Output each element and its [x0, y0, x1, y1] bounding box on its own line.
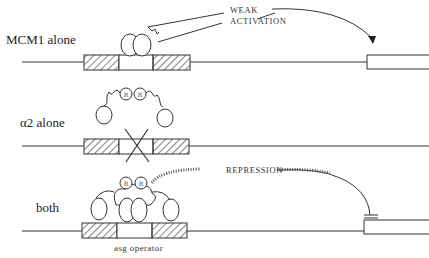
svg-text:R: R — [124, 180, 129, 187]
svg-text:R: R — [124, 91, 129, 98]
svg-text:R: R — [139, 180, 144, 187]
alpha2-dimer: R R — [96, 88, 173, 127]
activation-label: ACTIVATION — [230, 16, 286, 26]
row-alpha2: R R — [22, 88, 429, 162]
operator-label: asg operator — [114, 243, 163, 253]
svg-text:R: R — [138, 91, 143, 98]
row-mcm1 — [22, 9, 429, 70]
row-label-mcm1: MCM1 alone — [6, 32, 76, 48]
weak-label: WEAK — [230, 5, 258, 15]
arrowhead-icon — [368, 36, 376, 44]
repressor-complex: R R — [91, 177, 179, 222]
row-label-alpha2: α2 alone — [20, 115, 65, 131]
row-label-both: both — [36, 200, 59, 216]
mcm1-dimer — [121, 34, 151, 56]
target-gene-box — [367, 55, 429, 69]
operator-box — [84, 55, 190, 70]
repression-label: REPRESSION — [226, 165, 283, 175]
row-both: R R — [22, 169, 429, 238]
diagram-canvas: R R R R — [0, 0, 429, 258]
